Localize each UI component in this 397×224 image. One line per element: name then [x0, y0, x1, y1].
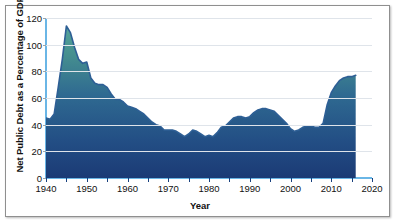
x-axis-tick: [372, 178, 373, 182]
x-axis-tick: [291, 178, 292, 182]
y-axis-tick-label: 0: [37, 173, 42, 184]
x-axis-tick: [331, 178, 332, 182]
x-axis-tick: [107, 178, 108, 182]
y-axis-tick-label: 100: [26, 39, 42, 50]
x-axis-tick: [66, 178, 67, 182]
y-axis-tick: [43, 71, 46, 72]
x-axis-tick: [87, 178, 88, 182]
y-axis-tick: [43, 98, 46, 99]
x-axis-title: Year: [150, 200, 250, 211]
x-axis-tick: [270, 178, 271, 182]
x-axis-tick-label: 1980: [198, 183, 219, 194]
x-axis-tick-label: 1950: [76, 183, 97, 194]
gridline-y: [46, 71, 372, 72]
y-axis-tick-label: 20: [31, 146, 42, 157]
y-axis-tick: [43, 151, 46, 152]
x-axis-tick: [46, 178, 47, 182]
x-axis-tick: [209, 178, 210, 182]
x-axis-tick-label: 2020: [361, 183, 382, 194]
gridline-y: [46, 125, 372, 126]
x-axis-tick: [148, 178, 149, 182]
x-axis-tick: [311, 178, 312, 182]
x-axis-tick: [189, 178, 190, 182]
y-axis-tick: [43, 125, 46, 126]
y-axis-tick: [43, 45, 46, 46]
x-axis-tick-label: 1960: [117, 183, 138, 194]
x-axis-tick: [128, 178, 129, 182]
x-axis-tick-label: 1940: [35, 183, 56, 194]
chart-figure: Net Public Debt as a Percentage of GDP Y…: [0, 0, 397, 224]
y-axis-tick: [43, 18, 46, 19]
x-axis-tick: [168, 178, 169, 182]
gridline-y: [46, 45, 372, 46]
plot-area: 0204060801001201940195019601970198019902…: [46, 18, 372, 178]
x-axis-tick-label: 1990: [239, 183, 260, 194]
x-axis-tick: [250, 178, 251, 182]
x-axis-tick-label: 1970: [158, 183, 179, 194]
x-axis-tick: [229, 178, 230, 182]
y-axis-title: Net Public Debt as a Percentage of GDP: [14, 23, 25, 173]
gridline-y: [46, 98, 372, 99]
y-axis-tick-label: 60: [31, 93, 42, 104]
x-axis-tick: [352, 178, 353, 182]
gridline-y: [46, 18, 372, 19]
x-axis-tick-label: 2000: [280, 183, 301, 194]
gridline-y: [46, 151, 372, 152]
y-axis-tick-label: 40: [31, 119, 42, 130]
y-axis-tick-label: 80: [31, 66, 42, 77]
y-axis-tick-label: 120: [26, 13, 42, 24]
x-axis-tick-label: 2010: [321, 183, 342, 194]
